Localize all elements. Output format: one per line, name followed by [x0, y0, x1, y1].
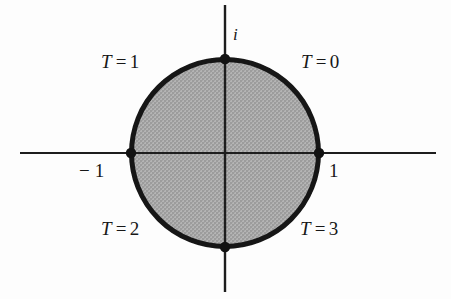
figure-canvas: T=1 T=0 T=2 T=3 −1 1 i: [0, 0, 451, 299]
quadrant-label-T2-value: 2: [130, 218, 140, 239]
quadrant-label-T3-value: 3: [329, 218, 339, 239]
quadrant-label-T0-value: 0: [330, 51, 340, 72]
axis-label-one: 1: [329, 161, 339, 180]
quadrant-label-T3-equals: =: [315, 218, 326, 239]
quadrant-label-T0-equals: =: [316, 51, 327, 72]
point-marker-minus-i: [220, 242, 230, 252]
minus-sign-glyph: −: [79, 160, 90, 181]
quadrant-label-T1-equals: =: [116, 51, 127, 72]
quadrant-label-T3: T=3: [300, 219, 338, 238]
axis-label-minus-one: −1: [79, 161, 104, 180]
axis-label-imaginary-unit: i: [233, 26, 238, 43]
quadrant-label-T1-value: 1: [130, 51, 140, 72]
quadrant-label-T3-variable: T: [300, 218, 311, 239]
quadrant-label-T2: T=2: [101, 219, 139, 238]
point-marker-i: [220, 54, 230, 64]
quadrant-label-T2-variable: T: [101, 218, 112, 239]
diagram-svg: [0, 0, 451, 299]
quadrant-label-T2-equals: =: [116, 218, 127, 239]
point-marker-minus-one: [126, 148, 136, 158]
point-marker-one: [314, 148, 324, 158]
axis-label-minus-one-value: 1: [95, 160, 105, 181]
quadrant-label-T1-variable: T: [101, 51, 112, 72]
quadrant-label-T0-variable: T: [301, 51, 312, 72]
quadrant-label-T1: T=1: [101, 52, 139, 71]
quadrant-label-T0: T=0: [301, 52, 339, 71]
